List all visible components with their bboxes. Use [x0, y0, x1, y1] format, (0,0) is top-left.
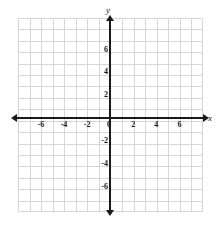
y-tick-label: -4: [92, 160, 108, 168]
x-tick-label: -6: [33, 121, 49, 129]
x-axis-left-arrow-icon: [11, 114, 17, 122]
y-axis-down-arrow-icon: [106, 210, 114, 216]
y-tick-label: -6: [92, 183, 108, 191]
origin-tick-label: 0: [95, 121, 111, 129]
y-tick-label: 6: [92, 46, 108, 54]
x-axis-label: x: [208, 114, 212, 123]
coordinate-plane: x y 0 -6 -4 -2 2 4 6 6 4 2 -2 -4 -6: [0, 0, 219, 226]
x-tick-label: -2: [79, 121, 95, 129]
y-axis-line: [109, 20, 111, 213]
y-tick-label: -2: [92, 137, 108, 145]
y-tick-label: 2: [92, 91, 108, 99]
y-tick-label: 4: [92, 68, 108, 76]
x-tick-label: -4: [56, 121, 72, 129]
y-axis-label: y: [106, 6, 110, 15]
x-tick-label: 6: [171, 121, 187, 129]
x-tick-label: 4: [148, 121, 164, 129]
x-tick-label: 2: [125, 121, 141, 129]
x-axis-line: [16, 117, 206, 119]
y-axis-up-arrow-icon: [106, 15, 114, 21]
